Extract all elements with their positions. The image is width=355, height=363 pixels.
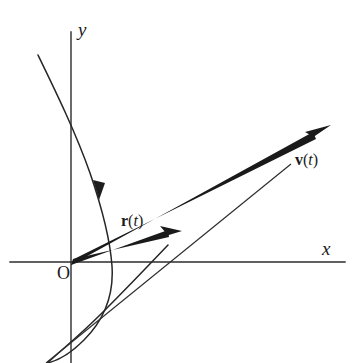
velocity-vector-arrowhead: [305, 125, 331, 142]
vector-diagram-figure: y x O r(t) v(t): [0, 0, 355, 363]
velocity-vector-group: [71, 125, 331, 265]
position-vector-arrowhead: [159, 226, 182, 238]
origin-label: O: [57, 264, 70, 282]
tangent-secant-line: [46, 164, 291, 363]
x-axis-label: x: [322, 239, 330, 258]
position-vector-label: r(t): [121, 213, 143, 229]
velocity-vector-name: v: [295, 151, 303, 168]
velocity-vector-close-paren: ): [313, 151, 318, 168]
figure-canvas: [0, 0, 355, 363]
curve-direction-arrowhead: [93, 180, 105, 200]
axes-group: [10, 32, 345, 363]
position-vector-group: [71, 226, 182, 265]
trajectory-curve-path: [38, 55, 112, 363]
tangent-line-group: [46, 164, 291, 363]
velocity-vector-shaft: [71, 132, 316, 265]
velocity-vector-label: v(t): [295, 152, 318, 168]
position-vector-close-paren: ): [138, 212, 143, 229]
y-axis-label: y: [78, 20, 86, 39]
